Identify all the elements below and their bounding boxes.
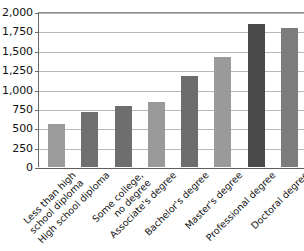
bar [115,106,132,167]
y-axis-tick-label: 2,000 [0,7,33,18]
y-axis-tick-label: 500 [0,123,33,134]
bar-series [38,12,304,167]
y-axis-tick-label: 1,500 [0,45,33,56]
y-axis-tick-label: 1,750 [0,26,33,37]
bar [248,24,265,167]
bar [148,102,165,167]
y-axis-tick-label: 1,250 [0,65,33,76]
bar [81,112,98,167]
y-axis-tick-label: 750 [0,103,33,114]
y-axis-tick-label: 0 [0,162,33,173]
y-axis-tick-label: 250 [0,142,33,153]
y-axis-labels: 02505007501,0001,2501,5001,7502,000 [0,12,33,167]
bar [281,28,298,167]
bar [48,124,65,167]
x-axis-labels: Less than highschool diplomaHigh school … [38,167,304,251]
bar [214,57,231,167]
bar-chart: 02505007501,0001,2501,5001,7502,000 Less… [0,0,304,251]
y-axis-tick-label: 1,000 [0,84,33,95]
bar [181,76,198,167]
